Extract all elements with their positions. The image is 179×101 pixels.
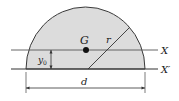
x-prime-axis-label: X′ bbox=[160, 64, 171, 75]
d-arrow-left bbox=[26, 87, 30, 90]
diameter-label: d bbox=[81, 76, 87, 87]
centroid-label: G bbox=[80, 34, 89, 47]
d-arrow-right bbox=[142, 87, 146, 90]
centroid-dot bbox=[83, 47, 89, 53]
semicircle-diagram: G r X X′ y0 d bbox=[0, 0, 179, 101]
x-axis-label: X bbox=[160, 45, 169, 56]
